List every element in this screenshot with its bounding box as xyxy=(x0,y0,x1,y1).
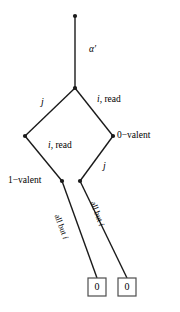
edge-label-i-prefix-2: i, xyxy=(48,140,53,150)
edge-right-to-bottom-right xyxy=(80,136,113,181)
edge-bottom-right-to-terminal-2 xyxy=(80,181,127,278)
edge-label-alpha-prime: α′ xyxy=(89,45,96,55)
edge-label-i-read-upper-right: i, read xyxy=(97,95,121,105)
edge-label-j-lower-right: j xyxy=(103,161,106,171)
node-root xyxy=(73,14,77,18)
edge-label-i-prefix-1: i, xyxy=(97,94,102,104)
edge-label-i-read-lower-left: i, read xyxy=(48,141,72,151)
terminal-value-2: 0 xyxy=(118,282,136,292)
edge-branch-to-left xyxy=(25,88,75,136)
edge-label-read-2: read xyxy=(55,140,71,150)
diagram-canvas: α′ j i, read 0−valent i, read j 1−valent… xyxy=(0,0,180,312)
node-branch xyxy=(73,86,77,90)
edge-label-read-1: read xyxy=(104,94,120,104)
node-bottom-right xyxy=(78,179,82,183)
edge-label-j-upper-left: j xyxy=(41,97,44,107)
node-bottom-left xyxy=(60,179,64,183)
node-right xyxy=(111,134,115,138)
node-left xyxy=(23,134,27,138)
terminal-value-1: 0 xyxy=(88,282,106,292)
node-label-one-valent: 1−valent xyxy=(8,176,41,186)
node-label-zero-valent: 0−valent xyxy=(117,131,150,141)
